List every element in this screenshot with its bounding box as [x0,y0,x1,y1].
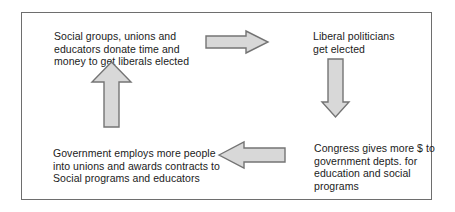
cycle-diagram: Social groups, unions and educators dona… [0,0,455,212]
node-text-bottom-right: Congress gives more $ to government dept… [314,142,442,192]
arrow-up-icon [91,61,132,128]
arrow-left-icon [218,141,286,169]
arrow-right-icon [205,30,269,54]
arrow-down-icon [321,58,350,118]
node-text-bottom-left: Government employs more people into unio… [53,147,245,185]
node-text-top-right: Liberal politicians get elected [313,30,443,55]
